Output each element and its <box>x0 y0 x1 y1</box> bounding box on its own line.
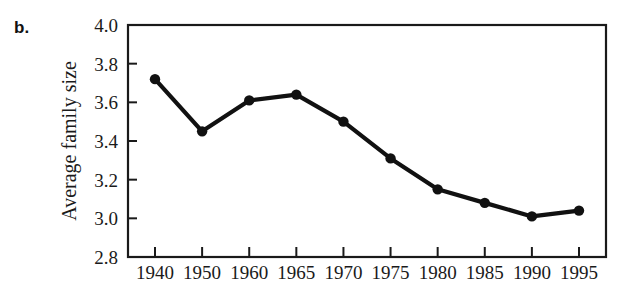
data-point <box>244 95 254 105</box>
data-point <box>150 74 160 84</box>
y-tick-label: 3.6 <box>94 92 118 113</box>
data-point <box>385 153 395 163</box>
x-tick-label: 1995 <box>560 262 598 283</box>
x-axis-ticks: 1940195019601965197019751980198519901995 <box>136 247 598 283</box>
y-tick-label: 4.0 <box>94 15 118 36</box>
y-tick-label: 3.2 <box>94 170 118 191</box>
data-point <box>432 184 442 194</box>
data-point <box>527 211 537 221</box>
y-tick-label: 3.4 <box>94 131 118 152</box>
x-tick-label: 1980 <box>419 262 457 283</box>
x-tick-label: 1975 <box>372 262 410 283</box>
x-tick-label: 1985 <box>466 262 504 283</box>
y-tick-label: 2.8 <box>94 247 118 268</box>
x-tick-label: 1960 <box>230 262 268 283</box>
data-point <box>197 126 207 136</box>
data-point-markers <box>150 74 584 222</box>
data-line-series <box>155 79 579 216</box>
data-point <box>574 205 584 215</box>
data-point <box>480 198 490 208</box>
y-axis-ticks: 2.83.03.23.43.63.84.0 <box>94 15 137 268</box>
x-tick-label: 1940 <box>136 262 174 283</box>
x-tick-label: 1965 <box>277 262 315 283</box>
line-chart: 2.83.03.23.43.63.84.0 194019501960196519… <box>0 0 637 303</box>
figure-panel-b: b. Average family size 2.83.03.23.43.63.… <box>0 0 637 303</box>
y-tick-label: 3.8 <box>94 54 118 75</box>
x-tick-label: 1970 <box>324 262 362 283</box>
data-point <box>338 116 348 126</box>
y-tick-label: 3.0 <box>94 208 118 229</box>
data-point <box>291 89 301 99</box>
x-tick-label: 1990 <box>513 262 551 283</box>
x-tick-label: 1950 <box>183 262 221 283</box>
